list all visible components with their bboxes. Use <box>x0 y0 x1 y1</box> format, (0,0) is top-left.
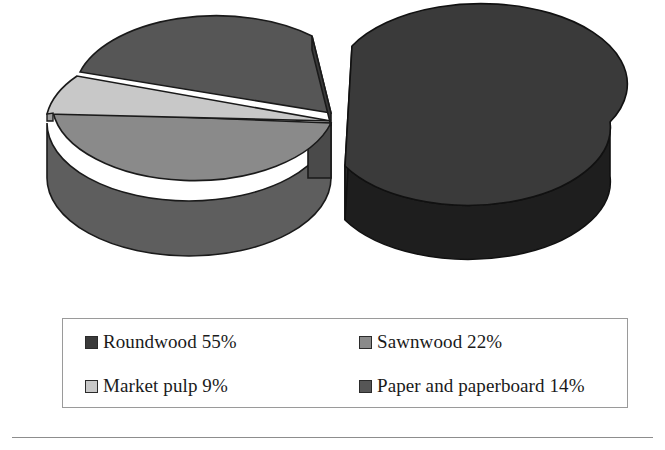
legend-label-roundwood: Roundwood 55% <box>103 332 237 351</box>
legend-swatch-paper-and-paperboard <box>359 380 372 393</box>
slice-side-market-pulp <box>47 113 53 121</box>
legend-label-paper-and-paperboard: Paper and paperboard 14% <box>377 376 585 395</box>
legend-label-market-pulp: Market pulp 9% <box>103 376 228 395</box>
legend-item-paper-and-paperboard: Paper and paperboard 14% <box>345 376 627 395</box>
legend-label-sawnwood: Sawnwood 22% <box>377 332 502 351</box>
legend-item-market-pulp: Market pulp 9% <box>63 376 345 395</box>
legend-swatch-roundwood <box>85 336 98 349</box>
legend-item-sawnwood: Sawnwood 22% <box>345 332 627 351</box>
legend-swatch-market-pulp <box>85 380 98 393</box>
pie-chart-graphic <box>0 0 665 300</box>
legend-grid: Roundwood 55% Sawnwood 22% Market pulp 9… <box>63 319 627 407</box>
chart-legend: Roundwood 55% Sawnwood 22% Market pulp 9… <box>62 318 628 408</box>
legend-swatch-sawnwood <box>359 336 372 349</box>
pie-chart-figure: Roundwood 55% Sawnwood 22% Market pulp 9… <box>0 0 665 450</box>
slice-top-sawnwood <box>53 112 331 181</box>
horizontal-rule <box>12 437 653 438</box>
legend-item-roundwood: Roundwood 55% <box>63 332 345 351</box>
